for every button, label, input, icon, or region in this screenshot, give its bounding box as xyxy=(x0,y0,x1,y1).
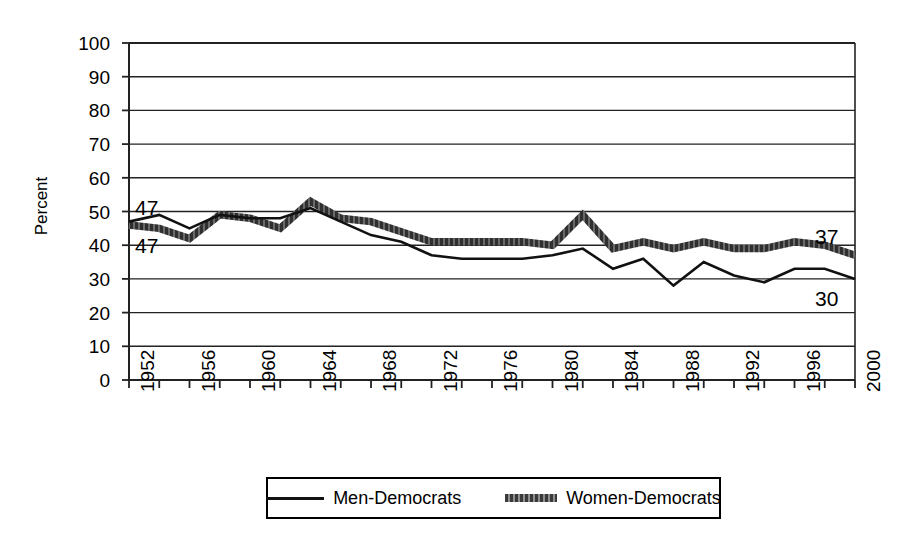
chart-figure: Percent 1009080706050403020100 195219561… xyxy=(0,0,917,551)
x-tick-label: 1956 xyxy=(198,350,220,392)
chart-legend: Men-Democrats Women-Democrats xyxy=(266,477,721,519)
value-label: 47 xyxy=(135,234,158,258)
x-tick-label: 1972 xyxy=(440,350,462,392)
x-tick-label: 1976 xyxy=(500,350,522,392)
legend-label-women-democrats: Women-Democrats xyxy=(566,488,721,509)
plot-area xyxy=(0,0,917,551)
x-tick-label: 2000 xyxy=(863,350,885,392)
x-tick-label: 1952 xyxy=(137,350,159,392)
value-label: 37 xyxy=(815,225,838,249)
x-tick-label: 1964 xyxy=(319,350,341,392)
legend-item-women-democrats: Women-Democrats xyxy=(505,488,721,509)
x-tick-label: 1992 xyxy=(742,350,764,392)
x-tick-label: 1988 xyxy=(682,350,704,392)
x-tick-label: 1960 xyxy=(258,350,280,392)
series-line-women-democrats xyxy=(129,201,855,255)
legend-label-men-democrats: Men-Democrats xyxy=(333,488,461,509)
value-label: 30 xyxy=(815,287,838,311)
x-tick-label: 1996 xyxy=(803,350,825,392)
x-tick-label: 1980 xyxy=(561,350,583,392)
thick-dashed-swatch xyxy=(505,494,557,502)
x-tick-label: 1968 xyxy=(379,350,401,392)
legend-item-men-democrats: Men-Democrats xyxy=(266,488,461,509)
value-label: 47 xyxy=(135,196,158,220)
thin-line-swatch xyxy=(266,497,324,500)
x-tick-label: 1984 xyxy=(621,350,643,392)
